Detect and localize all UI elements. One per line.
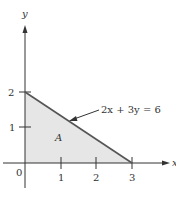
equation-pointer: [74, 110, 99, 119]
equation-pointer-arrow-icon: [69, 116, 78, 121]
y-tick-label-1: 1: [9, 122, 15, 133]
equation-label: 2x + 3y = 6: [101, 104, 161, 115]
region-label: A: [54, 132, 62, 143]
x-axis-arrow-icon: [162, 161, 170, 166]
x-tick-label-2: 2: [93, 172, 99, 183]
origin-label: 0: [16, 167, 22, 178]
x-tick-label-3: 3: [129, 172, 135, 183]
x-axis-label: x: [172, 157, 176, 168]
x-tick-label-1: 1: [58, 172, 64, 183]
y-tick-label-2: 2: [8, 87, 14, 98]
y-axis-label: y: [21, 8, 28, 19]
diagram-canvas: y x 0 1 2 3 1 2 2x + 3y = 6 A: [0, 0, 176, 204]
y-axis-arrow-icon: [23, 25, 28, 33]
